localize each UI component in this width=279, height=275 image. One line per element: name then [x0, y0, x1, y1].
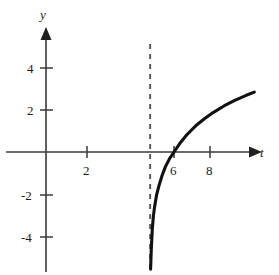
plot-area: t y 2 6 8 4 2 -2 -4	[0, 0, 279, 275]
x-tick-label-2: 2	[83, 163, 90, 178]
x-tick-label-6: 6	[170, 163, 177, 178]
y-tick-label-2: 2	[27, 103, 34, 118]
x-axis	[6, 147, 262, 158]
x-axis-label: t	[260, 145, 264, 160]
x-tick-label-8: 8	[206, 163, 213, 178]
chart-figure: t y 2 6 8 4 2 -2 -4	[0, 0, 279, 275]
y-axis	[41, 27, 52, 272]
y-tick-label-4: 4	[27, 61, 34, 76]
logarithmic-curve	[151, 92, 255, 269]
y-axis-label: y	[38, 7, 46, 22]
y-tick-label-neg4: -4	[21, 230, 32, 245]
y-tick-label-neg2: -2	[21, 188, 32, 203]
